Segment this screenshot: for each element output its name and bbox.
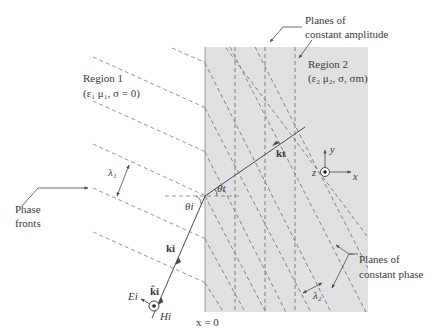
x-equals-0-label: x = 0	[196, 316, 219, 328]
phase-fronts-label-2: fronts	[15, 217, 41, 229]
planes-phase-label-2: constant phase	[359, 268, 424, 280]
k-i-hat-label: k̂i	[150, 285, 159, 297]
planes-amplitude-label-2: constant amplitude	[305, 28, 389, 40]
theta-i-label: θi	[185, 200, 193, 212]
phase-fronts-label-1: Phase	[15, 203, 41, 215]
region-1-params: (ε₁ μ₁, σ = 0)	[83, 87, 140, 100]
region-1-title: Region 1	[83, 72, 123, 84]
theta-i-arc	[196, 196, 201, 204]
h-i-label: Hi	[159, 310, 171, 322]
k-i-label: ki	[166, 242, 175, 254]
axis-z-label: z	[311, 167, 316, 178]
lambda1-label: λ₁	[107, 166, 117, 178]
lambda2-label: λ₂	[312, 289, 322, 301]
k-i-arrowhead	[175, 257, 181, 265]
planes-phase-label-1: Planes of	[359, 253, 400, 265]
amplitude-leader-1	[270, 27, 302, 42]
planes-amplitude-label-1: Planes of	[305, 14, 346, 26]
region-2-params: (ε₂ μ₂, σ, σm)	[308, 72, 368, 85]
lambda1-dimension	[117, 165, 129, 196]
e-i-label: Ei	[127, 290, 138, 302]
region-2-title: Region 2	[308, 58, 348, 70]
e-field-arrow	[141, 299, 150, 304]
axis-x-label: x	[352, 171, 358, 182]
theta-t-label: θt	[217, 182, 226, 194]
diagram-canvas: Region 1 (ε₁ μ₁, σ = 0) Region 2 (ε₂ μ₂,…	[0, 0, 432, 332]
axis-y-label: y	[329, 144, 335, 155]
k-t-label: kt	[276, 147, 286, 159]
